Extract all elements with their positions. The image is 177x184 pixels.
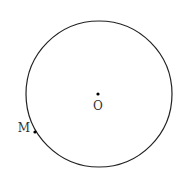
point-o-label: O xyxy=(93,99,103,113)
point-m-dot xyxy=(33,130,36,133)
point-o-dot xyxy=(96,92,99,95)
circle-diagram: O M xyxy=(0,0,177,184)
point-m-label: M xyxy=(18,121,30,135)
